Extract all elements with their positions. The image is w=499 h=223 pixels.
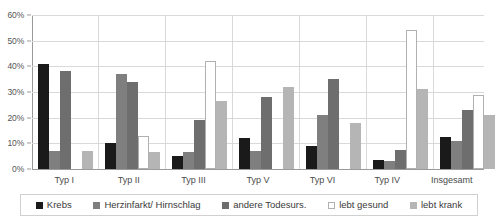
bar-group — [300, 15, 367, 169]
y-tick-mark — [27, 15, 31, 16]
x-tick-label: Insgesamt — [419, 172, 484, 190]
bar — [440, 137, 451, 169]
y-tick-label: 50% — [8, 36, 24, 46]
x-axis-labels: Typ ITyp IITyp IIITyp VTyp VITyp IVInsge… — [32, 172, 484, 190]
bar — [49, 151, 60, 169]
y-tick-mark — [27, 40, 31, 41]
x-tick-label: Typ III — [161, 172, 226, 190]
bar — [149, 152, 160, 169]
x-tick-label: Typ II — [97, 172, 162, 190]
bar — [38, 64, 49, 169]
bar — [82, 151, 93, 169]
bar-group — [233, 15, 300, 169]
bar-group — [99, 15, 166, 169]
bar — [105, 143, 116, 169]
x-axis-line — [32, 169, 484, 170]
bar — [183, 152, 194, 169]
legend-item[interactable]: andere Todesurs. — [222, 200, 306, 210]
bar — [127, 82, 138, 169]
bar — [328, 79, 339, 169]
bar — [484, 115, 495, 169]
bar — [406, 30, 417, 169]
bar-group — [32, 15, 99, 169]
legend-swatch-icon — [410, 202, 417, 209]
bar-group — [367, 15, 434, 169]
bar — [250, 151, 261, 169]
y-tick-label: 40% — [8, 61, 24, 71]
legend-label: Herzinfarkt/ Hirnschlag — [104, 200, 200, 210]
legend-item[interactable]: lebt gesund — [328, 200, 388, 210]
legend-swatch-icon — [328, 202, 335, 209]
y-tick-label: 0% — [12, 164, 24, 174]
bar — [373, 160, 384, 169]
bar — [60, 71, 71, 169]
bar — [384, 161, 395, 169]
x-tick-label: Typ IV — [355, 172, 420, 190]
bar — [462, 110, 473, 169]
y-tick-label: 10% — [8, 138, 24, 148]
bar — [116, 74, 127, 169]
y-tick-mark — [27, 143, 31, 144]
bar — [306, 146, 317, 169]
plot-area — [32, 15, 484, 169]
x-tick-label: Typ V — [226, 172, 291, 190]
y-tick-label: 60% — [8, 10, 24, 20]
legend-label: Krebs — [47, 200, 72, 210]
y-tick-mark — [27, 117, 31, 118]
bar — [138, 136, 149, 169]
legend-label: lebt krank — [421, 200, 462, 210]
legend-item[interactable]: lebt krank — [410, 200, 462, 210]
bar — [205, 61, 216, 169]
y-tick-mark — [27, 66, 31, 67]
y-tick-label: 30% — [8, 87, 24, 97]
bar — [451, 141, 462, 169]
bar — [317, 115, 328, 169]
bar-groups — [32, 15, 484, 169]
legend-item[interactable]: Herzinfarkt/ Hirnschlag — [93, 200, 200, 210]
bar — [417, 89, 428, 169]
legend-swatch-icon — [36, 202, 43, 209]
bar — [283, 87, 294, 169]
bar — [473, 95, 484, 169]
legend-item[interactable]: Krebs — [36, 200, 72, 210]
chart-legend: KrebsHerzinfarkt/ Hirnschlagandere Todes… — [20, 194, 478, 216]
y-tick-mark — [27, 169, 31, 170]
bar-group — [434, 15, 499, 169]
x-tick-label: Typ I — [32, 172, 97, 190]
x-tick-label: Typ VI — [290, 172, 355, 190]
legend-label: andere Todesurs. — [233, 200, 306, 210]
bar — [194, 120, 205, 169]
bar — [216, 101, 227, 169]
bar — [172, 156, 183, 169]
legend-swatch-icon — [93, 202, 100, 209]
legend-swatch-icon — [222, 202, 229, 209]
y-tick-label: 20% — [8, 113, 24, 123]
bar — [261, 97, 272, 169]
bar-group — [166, 15, 233, 169]
bar — [350, 123, 361, 169]
y-axis-labels: 60%50%40%30%20%10%0% — [0, 15, 28, 169]
bar — [395, 150, 406, 169]
y-tick-mark — [27, 92, 31, 93]
bar — [239, 138, 250, 169]
legend-label: lebt gesund — [339, 200, 388, 210]
